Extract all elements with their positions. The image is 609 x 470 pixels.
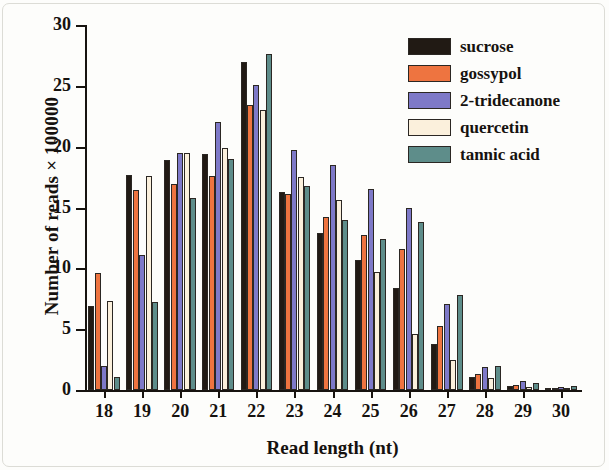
bar-tannic-acid-18 xyxy=(114,377,120,390)
legend-swatch-icon xyxy=(408,65,451,82)
x-axis-tick xyxy=(371,391,373,398)
legend-swatch-icon xyxy=(408,92,451,109)
y-axis-tick: 15 xyxy=(76,208,85,210)
bar-tannic-acid-26 xyxy=(418,222,424,390)
bar-gossypol-18 xyxy=(95,273,101,390)
bar-tannic-acid-20 xyxy=(190,198,196,390)
bar-2-tridecanone-29 xyxy=(520,381,526,390)
y-axis-tick: 10 xyxy=(76,268,85,270)
bar-sucrose-23 xyxy=(279,192,285,390)
legend-label: tannic acid xyxy=(460,145,540,165)
x-axis-tick-label: 22 xyxy=(247,401,265,422)
bar-tannic-acid-24 xyxy=(342,220,348,390)
bar-quercetin-20 xyxy=(184,153,190,390)
bar-quercetin-27 xyxy=(450,360,456,390)
bar-quercetin-26 xyxy=(412,334,418,390)
y-axis-tick-label: 10 xyxy=(53,257,71,278)
bar-tannic-acid-19 xyxy=(152,302,158,390)
bar-sucrose-25 xyxy=(355,260,361,390)
bar-gossypol-21 xyxy=(209,176,215,390)
x-axis-tick-label: 19 xyxy=(133,401,151,422)
bar-2-tridecanone-30 xyxy=(558,387,564,390)
x-axis-tick-label: 27 xyxy=(438,401,456,422)
bar-quercetin-19 xyxy=(146,176,152,390)
legend-label: sucrose xyxy=(460,37,514,57)
bar-2-tridecanone-28 xyxy=(482,367,488,390)
legend: sucrosegossypol2-tridecanonequercetintan… xyxy=(408,33,604,168)
bar-2-tridecanone-24 xyxy=(330,165,336,390)
x-axis-tick xyxy=(180,391,182,398)
bar-sucrose-24 xyxy=(317,233,323,390)
bar-gossypol-26 xyxy=(399,249,405,390)
x-axis-tick xyxy=(104,391,106,398)
bar-2-tridecanone-26 xyxy=(406,208,412,391)
legend-item-tannic-acid: tannic acid xyxy=(408,141,604,168)
bar-gossypol-19 xyxy=(133,190,139,390)
legend-item-quercetin: quercetin xyxy=(408,114,604,141)
x-axis-tick-label: 26 xyxy=(400,401,418,422)
x-axis-tick xyxy=(409,391,411,398)
x-axis-tick xyxy=(333,391,335,398)
bar-gossypol-22 xyxy=(247,105,253,390)
bar-2-tridecanone-19 xyxy=(139,255,145,390)
y-axis-tick-label: 25 xyxy=(53,75,71,96)
bar-gossypol-27 xyxy=(437,326,443,390)
y-axis-tick: 25 xyxy=(76,86,85,88)
bar-gossypol-23 xyxy=(285,194,291,390)
x-axis-tick-label: 21 xyxy=(209,401,227,422)
bar-2-tridecanone-22 xyxy=(253,85,259,390)
bar-tannic-acid-22 xyxy=(266,54,272,390)
y-axis-tick-label: 0 xyxy=(62,379,71,400)
bar-sucrose-28 xyxy=(469,377,475,390)
bar-tannic-acid-27 xyxy=(457,295,463,390)
y-axis-line xyxy=(85,25,87,391)
bar-tannic-acid-25 xyxy=(380,239,386,390)
bar-sucrose-18 xyxy=(88,306,94,390)
x-axis-tick-label: 23 xyxy=(285,401,303,422)
legend-swatch-icon xyxy=(408,38,451,55)
x-axis-tick xyxy=(485,391,487,398)
x-axis-tick xyxy=(523,391,525,398)
x-axis-tick-label: 28 xyxy=(476,401,494,422)
bar-sucrose-29 xyxy=(507,386,513,390)
bar-2-tridecanone-27 xyxy=(444,304,450,390)
bar-gossypol-29 xyxy=(513,385,519,390)
legend-label: quercetin xyxy=(460,118,529,138)
bar-quercetin-28 xyxy=(488,378,494,390)
bar-tannic-acid-21 xyxy=(228,159,234,390)
bar-tannic-acid-23 xyxy=(304,186,310,390)
bar-sucrose-22 xyxy=(241,62,247,391)
bar-2-tridecanone-23 xyxy=(291,150,297,390)
x-axis-tick-label: 18 xyxy=(95,401,113,422)
bar-gossypol-24 xyxy=(323,217,329,390)
bar-sucrose-19 xyxy=(126,175,132,390)
bar-quercetin-24 xyxy=(336,200,342,390)
bar-sucrose-20 xyxy=(164,160,170,390)
x-axis-title: Read length (nt) xyxy=(85,437,580,459)
x-axis-tick-label: 20 xyxy=(171,401,189,422)
bar-quercetin-25 xyxy=(374,272,380,390)
bar-2-tridecanone-18 xyxy=(101,366,107,390)
legend-item-gossypol: gossypol xyxy=(408,60,604,87)
x-axis-tick xyxy=(294,391,296,398)
bar-tannic-acid-30 xyxy=(571,386,577,390)
y-axis-tick-label: 20 xyxy=(53,136,71,157)
bar-gossypol-30 xyxy=(552,388,558,390)
y-axis-tick: 30 xyxy=(76,25,85,27)
x-axis-tick xyxy=(447,391,449,398)
bar-quercetin-18 xyxy=(107,301,113,390)
bar-quercetin-21 xyxy=(222,148,228,390)
legend-swatch-icon xyxy=(408,146,451,163)
bar-sucrose-27 xyxy=(431,344,437,390)
x-axis-tick-label: 29 xyxy=(514,401,532,422)
x-axis-tick xyxy=(218,391,220,398)
bar-gossypol-28 xyxy=(475,374,481,390)
figure-container: Number of reads × 100000 051015202530 18… xyxy=(0,0,609,470)
x-axis-tick xyxy=(142,391,144,398)
y-axis-tick-label: 5 xyxy=(62,318,71,339)
bar-2-tridecanone-20 xyxy=(177,153,183,390)
y-axis-tick: 20 xyxy=(76,147,85,149)
bar-gossypol-20 xyxy=(171,184,177,390)
x-axis-tick-label: 25 xyxy=(362,401,380,422)
y-axis-tick-label: 15 xyxy=(53,197,71,218)
